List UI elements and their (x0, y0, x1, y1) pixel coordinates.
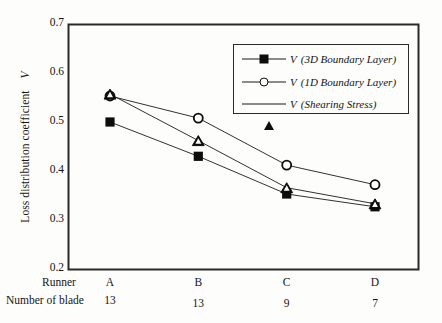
data-point-filled-square (194, 152, 203, 161)
legend-swatch-open-triangle (238, 94, 290, 114)
open-circle-icon (260, 77, 269, 86)
legend: V(3D Boundary Layer) V(1D Boundary Layer… (233, 44, 409, 114)
legend-item-1d-boundary-layer[interactable]: V(1D Boundary Layer) (234, 70, 408, 93)
legend-label-1d-boundary-layer: V(1D Boundary Layer) (290, 76, 396, 88)
data-point-open-circle (194, 114, 203, 123)
data-point-open-circle (282, 161, 291, 170)
legend-label-shearing-stress: V(Shearing Stress) (290, 98, 376, 110)
legend-item-shearing-stress[interactable]: V(Shearing Stress) (234, 92, 408, 115)
data-point-filled-square (105, 117, 114, 126)
open-triangle-icon (264, 104, 274, 130)
data-point-open-circle (371, 180, 380, 189)
figure-container: Loss distribution coefficientV 0.70.60.5… (0, 0, 442, 323)
legend-item-3d-boundary-layer[interactable]: V(3D Boundary Layer) (234, 47, 408, 70)
legend-swatch-filled-square (238, 49, 290, 69)
legend-swatch-open-circle (238, 72, 290, 92)
filled-square-icon (260, 54, 269, 63)
legend-label-3d-boundary-layer: V(3D Boundary Layer) (290, 53, 396, 65)
